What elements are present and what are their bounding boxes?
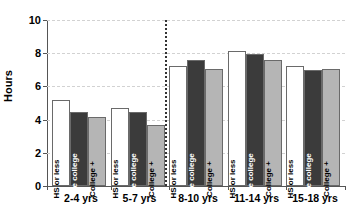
y-tick-label: 4 (35, 114, 41, 126)
bar: HS or less (286, 66, 304, 186)
y-axis-line (47, 20, 48, 186)
y-tick-label: 2 (35, 147, 41, 159)
y-tick-mark (43, 120, 47, 121)
bar-group: HS or lessSome collegeCollege + (52, 20, 110, 186)
bar: College + (147, 125, 165, 186)
bar: College + (205, 69, 223, 186)
x-tick-mark (286, 186, 287, 190)
y-tick-label: 8 (35, 47, 41, 59)
bar: College + (264, 60, 282, 186)
bar: HS or less (228, 51, 246, 186)
bar: HS or less (111, 108, 129, 186)
bar-group: HS or lessSome collegeCollege + (228, 20, 286, 186)
y-tick-label: 10 (29, 14, 41, 26)
x-axis-group-label: 15-18 yrs (282, 192, 348, 204)
bar: Some college (70, 112, 88, 186)
y-tick-mark (43, 86, 47, 87)
bar-group: HS or lessSome collegeCollege + (286, 20, 344, 186)
y-tick-label: 0 (35, 180, 41, 192)
y-tick-label: 6 (35, 80, 41, 92)
x-axis-group-label: 8-10 yrs (165, 192, 231, 204)
bar: College + (88, 117, 106, 186)
x-tick-mark (111, 186, 112, 190)
y-tick-mark (43, 153, 47, 154)
x-tick-mark (47, 186, 48, 190)
bar: HS or less (52, 100, 70, 186)
bar-chart: Hours 0246810 HS or lessSome collegeColl… (0, 0, 350, 223)
bar-group: HS or lessSome collegeCollege + (169, 20, 227, 186)
plot-area: 0246810 HS or lessSome collegeCollege +H… (47, 20, 345, 186)
y-tick-mark (43, 53, 47, 54)
x-tick-mark (169, 186, 170, 190)
x-axis-group-label: 11-14 yrs (224, 192, 290, 204)
x-axis-group-label: 2-4 yrs (48, 192, 114, 204)
bar: HS or less (169, 66, 187, 186)
y-tick-mark (43, 20, 47, 21)
y-axis-title: Hours (2, 56, 14, 116)
bar: Some college (304, 70, 322, 186)
bar: Some college (187, 60, 205, 186)
vertical-divider (165, 20, 167, 186)
bar: College + (322, 69, 340, 186)
bar-group: HS or lessSome collegeCollege + (111, 20, 169, 186)
x-tick-mark (345, 186, 346, 190)
bar: Some college (129, 112, 147, 186)
x-tick-mark (228, 186, 229, 190)
x-axis-group-label: 5-7 yrs (107, 192, 173, 204)
bar: Some college (246, 54, 264, 186)
